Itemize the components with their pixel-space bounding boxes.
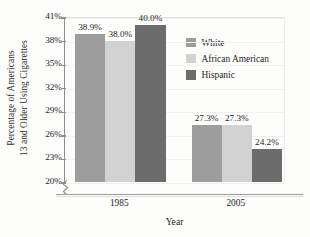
bar: 27.3% (222, 125, 252, 182)
y-axis-tick-label: 29% (34, 107, 62, 116)
y-axis-tick-mark (61, 159, 66, 160)
y-axis-title-line-2: 13 and Older Using Cigarettes (18, 40, 31, 156)
bar: 38.0% (105, 41, 135, 182)
legend-swatch-icon (186, 70, 196, 80)
legend-item: African American (186, 53, 269, 64)
y-axis-tick-label: 38% (34, 36, 62, 45)
y-axis-tick-mark (61, 88, 66, 89)
y-axis-tick-label: 41% (34, 12, 62, 21)
bar-value-label: 38.0% (108, 30, 132, 39)
y-axis-tick-label: 26% (34, 130, 62, 139)
bar-value-label: 27.3% (225, 114, 249, 123)
bar: 27.3% (192, 125, 222, 182)
x-axis-tick-label: 2005 (226, 198, 245, 209)
legend: WhiteAfrican AmericanHispanic (186, 37, 269, 80)
y-axis-tick-mark (61, 17, 66, 18)
y-axis-tick-labels: 20%23%26%29%32%35%38%41% (34, 0, 62, 195)
y-axis-tick-label: 35% (34, 60, 62, 69)
y-axis-tick-label: 23% (34, 154, 62, 163)
y-axis-title: Percentage of Americans 13 and Older Usi… (0, 0, 36, 195)
plot-area: WhiteAfrican AmericanHispanic 38.9%38.0%… (64, 17, 285, 182)
axis-break-icon (58, 179, 72, 195)
bar-value-label: 27.3% (195, 114, 219, 123)
x-axis-tick-label: 1985 (110, 198, 129, 209)
x-axis-line-shadow (56, 196, 303, 197)
bar-chart-figure: Percentage of Americans 13 and Older Usi… (0, 0, 310, 237)
y-axis-title-line-1: Percentage of Americans (5, 40, 18, 156)
bar: 40.0% (135, 25, 165, 182)
bar-value-label: 38.9% (78, 23, 102, 32)
y-axis-tick-mark (61, 112, 66, 113)
bar-value-label: 40.0% (139, 14, 163, 23)
legend-item: Hispanic (186, 69, 269, 80)
x-axis-title: Year (64, 216, 285, 227)
y-axis-tick-mark (61, 65, 66, 66)
y-axis-tick-label: 32% (34, 83, 62, 92)
legend-swatch-icon (186, 54, 196, 64)
gridline (65, 183, 284, 184)
bar: 24.2% (252, 149, 282, 182)
legend-item-label: Hispanic (202, 70, 235, 80)
y-axis-tick-mark (61, 135, 66, 136)
legend-item-label: African American (202, 54, 269, 64)
bar-value-label: 24.2% (255, 138, 279, 147)
bar: 38.9% (75, 34, 105, 183)
y-axis-tick-mark (61, 41, 66, 42)
gridline (65, 18, 284, 19)
